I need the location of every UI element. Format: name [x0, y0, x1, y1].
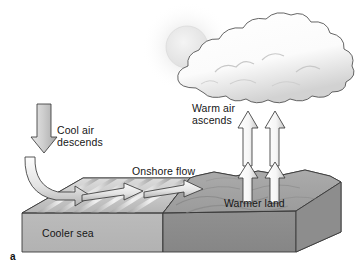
label-warmer-land: Warmer land	[224, 198, 285, 210]
ascending-arrow-upper-left	[238, 111, 258, 166]
label-warm-air-ascends: Warm air ascends	[192, 103, 235, 126]
figure-letter: a	[10, 251, 16, 262]
label-onshore-flow: Onshore flow	[132, 166, 195, 178]
sea-breeze-figure: Cool air descends Onshore flow Warm air …	[0, 0, 358, 270]
label-cool-air-descends: Cool air descends	[57, 125, 103, 148]
ascending-arrow-upper-right	[265, 111, 285, 166]
label-cooler-sea: Cooler sea	[42, 228, 94, 240]
downward-arrow	[31, 104, 57, 153]
